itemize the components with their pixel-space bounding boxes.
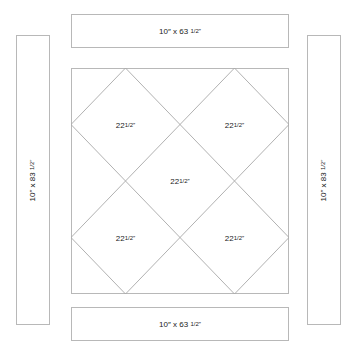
block-upper-right-label: 221/2″ [225,120,244,129]
left-border-strip: 10″ x 83 1/2″ [16,35,50,325]
bottom-border-strip: 10″ x 63 1/2″ [71,307,289,341]
block-lower-right-label: 221/2″ [225,233,244,242]
right-border-label: 10″ x 83 1/2″ [320,159,329,201]
block-center-label: 221/2″ [170,177,189,186]
bottom-border-label: 10″ x 63 1/2″ [159,320,201,329]
left-border-label: 10″ x 83 1/2″ [29,159,38,201]
right-border-strip: 10″ x 83 1/2″ [307,35,341,325]
block-lower-left-label: 221/2″ [116,233,135,242]
top-border-strip: 10″ x 63 1/2″ [71,14,289,48]
block-upper-left-label: 221/2″ [116,120,135,129]
top-border-label: 10″ x 63 1/2″ [159,27,201,36]
quilt-center-field: 221/2″ 221/2″ 221/2″ 221/2″ 221/2″ [71,68,289,294]
